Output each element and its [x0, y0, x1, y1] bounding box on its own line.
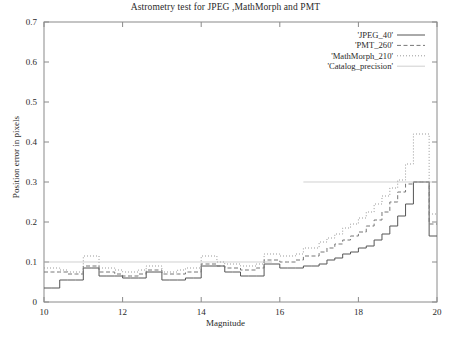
series-line — [44, 134, 437, 272]
y-tick-label: 0 — [33, 297, 38, 307]
x-axis-label: Magnitude — [0, 318, 451, 328]
x-tick-label: 12 — [118, 307, 127, 317]
legend-label-0: 'JPEG_40' — [357, 30, 393, 40]
y-tick-label: 0.7 — [26, 17, 38, 27]
legend-label-2: 'MathMorph_210' — [331, 51, 393, 61]
chart-figure: Astrometry test for JPEG ,MathMorph and … — [0, 0, 451, 338]
y-tick-label: 0.4 — [26, 137, 38, 147]
y-tick-label: 0.1 — [26, 257, 37, 267]
y-axis-label: Position error in pixels — [11, 87, 21, 227]
x-tick-label: 18 — [354, 307, 364, 317]
y-tick-label: 0.6 — [26, 57, 38, 67]
x-tick-label: 20 — [433, 307, 443, 317]
x-tick-label: 16 — [275, 307, 285, 317]
y-tick-label: 0.5 — [26, 97, 38, 107]
y-tick-label: 0.3 — [26, 177, 38, 187]
legend-label-3: 'Catalog_precision' — [327, 61, 393, 71]
y-tick-label: 0.2 — [26, 217, 37, 227]
series-2 — [44, 134, 437, 272]
x-tick-label: 10 — [40, 307, 50, 317]
x-tick-label: 14 — [197, 307, 207, 317]
legend-label-1: 'PMT_260' — [355, 40, 393, 50]
series-3 — [44, 182, 437, 262]
plot-area: 00.10.20.30.40.50.60.7101214161820'JPEG_… — [0, 0, 451, 338]
